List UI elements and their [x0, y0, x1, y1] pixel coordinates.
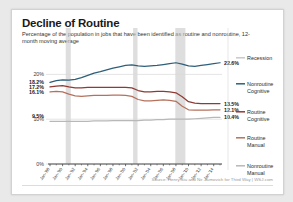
svg-text:Jan-'88: Jan-'88 — [39, 166, 51, 181]
svg-text:Jan-'98: Jan-'98 — [102, 166, 114, 181]
svg-text:Jan-'02: Jan-'02 — [127, 166, 139, 181]
svg-text:Jan-'96: Jan-'96 — [89, 166, 101, 181]
svg-text:Routine: Routine — [247, 135, 266, 141]
svg-text:16.1%: 16.1% — [29, 89, 44, 95]
svg-text:13.5%: 13.5% — [224, 101, 239, 107]
chart-card: Decline of Routine Percentage of the pop… — [11, 9, 284, 195]
svg-text:20%: 20% — [33, 71, 44, 77]
footer-divider — [22, 185, 273, 186]
svg-text:22.6%: 22.6% — [224, 60, 239, 66]
svg-text:9.5%: 9.5% — [32, 113, 44, 119]
chart-plot-area: 0%10%20% 18.2%17.2%16.1%9.5% 22.6%13.5%1… — [12, 10, 283, 194]
line-chart: 0%10%20% 18.2%17.2%16.1%9.5% 22.6%13.5%1… — [12, 10, 283, 194]
svg-text:Nonroutine: Nonroutine — [247, 81, 273, 87]
svg-text:Jan-'04: Jan-'04 — [139, 166, 151, 181]
svg-text:0%: 0% — [36, 161, 44, 167]
svg-text:Jan-'90: Jan-'90 — [51, 166, 63, 181]
start-value-labels: 18.2%17.2%16.1%9.5% — [29, 79, 44, 119]
svg-text:Routine: Routine — [247, 109, 266, 115]
svg-text:Nonroutine: Nonroutine — [247, 163, 273, 169]
svg-text:Jan-'00: Jan-'00 — [114, 166, 126, 181]
svg-text:Jan-'92: Jan-'92 — [64, 166, 76, 181]
svg-text:Jan-'94: Jan-'94 — [76, 166, 88, 181]
svg-text:Manual: Manual — [247, 170, 265, 176]
svg-text:Cognitive: Cognitive — [247, 88, 269, 94]
source-attribution: Source: Henry Siu and Nir Jaimovich for … — [152, 177, 273, 182]
svg-text:Cognitive: Cognitive — [247, 116, 269, 122]
svg-text:Recession: Recession — [247, 55, 272, 61]
x-axis — [48, 164, 222, 166]
chart-legend: RecessionNonroutineCognitiveRoutineCogni… — [236, 55, 273, 176]
svg-text:10.4%: 10.4% — [224, 114, 239, 120]
svg-text:Manual: Manual — [247, 142, 265, 148]
screenshot-frame: Decline of Routine Percentage of the pop… — [0, 0, 293, 202]
